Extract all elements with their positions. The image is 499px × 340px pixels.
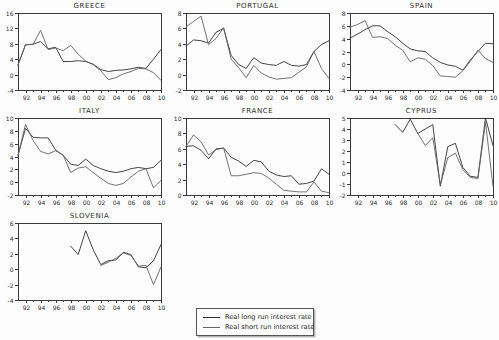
svg-text:2: 2 <box>10 166 14 173</box>
svg-text:96: 96 <box>53 94 61 101</box>
svg-text:92: 92 <box>23 304 31 311</box>
svg-text:2: 2 <box>342 49 346 56</box>
svg-text:08: 08 <box>143 304 151 311</box>
svg-text:00: 00 <box>415 199 423 206</box>
svg-text:4: 4 <box>10 235 14 242</box>
svg-text:-2: -2 <box>340 74 346 81</box>
svg-text:10: 10 <box>174 115 182 122</box>
series-line-short-run <box>350 21 493 77</box>
svg-text:96: 96 <box>221 94 229 101</box>
svg-text:6: 6 <box>10 220 14 227</box>
chart-panel-spain: SPAIN-4-20246892949698000204060810 <box>334 0 499 104</box>
svg-text:0: 0 <box>178 192 182 199</box>
chart-panel-italy: ITALY-2024681092949698000204060810 <box>2 105 167 209</box>
svg-text:08: 08 <box>311 199 319 206</box>
svg-text:3: 3 <box>342 137 346 144</box>
svg-text:8: 8 <box>342 10 346 17</box>
svg-text:08: 08 <box>143 199 151 206</box>
svg-text:0: 0 <box>178 72 182 79</box>
svg-text:94: 94 <box>206 94 214 101</box>
series-line-long-run <box>18 41 161 71</box>
svg-text:98: 98 <box>400 199 408 206</box>
svg-text:98: 98 <box>68 94 76 101</box>
svg-text:98: 98 <box>68 199 76 206</box>
chart-panel-slovenia: SLOVENIA-4-2024692949698000204060810 <box>2 210 167 314</box>
chart-panel-portugal: PORTUGAL-20246892949698000204060810 <box>170 0 335 104</box>
svg-text:08: 08 <box>475 199 483 206</box>
svg-text:96: 96 <box>221 199 229 206</box>
svg-text:4: 4 <box>10 56 14 63</box>
svg-text:4: 4 <box>342 36 346 43</box>
svg-text:6: 6 <box>10 141 14 148</box>
svg-text:-1: -1 <box>340 181 346 188</box>
legend-line-sample-short <box>203 327 220 328</box>
svg-text:08: 08 <box>311 94 319 101</box>
svg-text:0: 0 <box>10 72 14 79</box>
svg-text:02: 02 <box>430 94 438 101</box>
series-line-short-run <box>418 122 493 186</box>
svg-text:10: 10 <box>158 304 166 311</box>
legend-line-sample-long <box>203 317 220 318</box>
svg-text:8: 8 <box>10 128 14 135</box>
svg-text:12: 12 <box>6 25 14 32</box>
svg-text:02: 02 <box>266 94 274 101</box>
svg-text:06: 06 <box>128 199 136 206</box>
svg-text:04: 04 <box>113 199 121 206</box>
svg-text:10: 10 <box>490 94 498 101</box>
svg-text:92: 92 <box>355 94 363 101</box>
chart-plot-slovenia: -4-2024692949698000204060810 <box>2 210 167 314</box>
svg-text:98: 98 <box>236 199 244 206</box>
svg-text:4: 4 <box>342 126 346 133</box>
series-line-long-run <box>71 231 161 268</box>
svg-text:98: 98 <box>236 94 244 101</box>
svg-text:-2: -2 <box>8 192 14 199</box>
svg-text:4: 4 <box>178 161 182 168</box>
svg-text:96: 96 <box>53 199 61 206</box>
svg-text:02: 02 <box>430 199 438 206</box>
svg-text:92: 92 <box>23 199 31 206</box>
svg-text:6: 6 <box>178 25 182 32</box>
svg-text:96: 96 <box>53 304 61 311</box>
chart-plot-italy: -2024681092949698000204060810 <box>2 105 167 209</box>
svg-text:94: 94 <box>38 199 46 206</box>
figure-canvas: GREECE-4048121692949698000204060810PORTU… <box>0 0 499 340</box>
legend-label-long: Real long run interest rate <box>225 313 312 321</box>
series-line-short-run <box>18 30 161 80</box>
svg-text:10: 10 <box>158 199 166 206</box>
svg-text:00: 00 <box>83 199 91 206</box>
series-line-short-run <box>101 253 161 285</box>
svg-text:04: 04 <box>113 94 121 101</box>
svg-text:92: 92 <box>191 199 199 206</box>
series-line-long-run <box>186 28 329 68</box>
svg-text:00: 00 <box>83 94 91 101</box>
svg-text:06: 06 <box>128 304 136 311</box>
chart-panel-france: FRANCE024681092949698000204060810 <box>170 105 335 209</box>
svg-text:6: 6 <box>342 23 346 30</box>
svg-text:98: 98 <box>400 94 408 101</box>
svg-text:00: 00 <box>83 304 91 311</box>
svg-text:0: 0 <box>342 61 346 68</box>
svg-text:5: 5 <box>342 115 346 122</box>
svg-text:1: 1 <box>342 159 346 166</box>
svg-text:98: 98 <box>68 304 76 311</box>
svg-text:-2: -2 <box>8 282 14 289</box>
svg-text:2: 2 <box>342 148 346 155</box>
svg-text:04: 04 <box>281 94 289 101</box>
chart-panel-cyprus: CYPRUS-2-101234592949698000204060810 <box>334 105 499 209</box>
svg-text:4: 4 <box>10 154 14 161</box>
svg-text:92: 92 <box>191 94 199 101</box>
svg-text:10: 10 <box>490 199 498 206</box>
svg-text:04: 04 <box>281 199 289 206</box>
svg-text:-4: -4 <box>8 87 14 94</box>
svg-text:04: 04 <box>445 94 453 101</box>
legend-label-short: Real short run interest rate <box>225 323 314 331</box>
svg-text:94: 94 <box>38 304 46 311</box>
series-line-long-run <box>186 146 329 185</box>
svg-text:08: 08 <box>475 94 483 101</box>
svg-text:2: 2 <box>178 56 182 63</box>
svg-text:92: 92 <box>23 94 31 101</box>
series-line-short-run <box>186 135 329 193</box>
chart-plot-france: 024681092949698000204060810 <box>170 105 335 209</box>
svg-text:10: 10 <box>158 94 166 101</box>
svg-text:96: 96 <box>385 94 393 101</box>
